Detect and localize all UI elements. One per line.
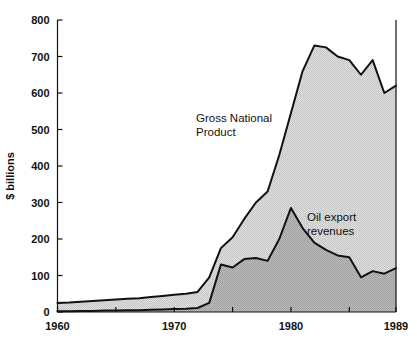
y-tick-label: 0 [43, 306, 49, 318]
y-axis-tick-labels: 0100200300400500600700800 [31, 14, 49, 318]
gnp-series-label: Gross National Product [196, 112, 272, 138]
oil-label-line1: Oil export [307, 211, 357, 223]
area-chart: 0100200300400500600700800 19601970198019… [0, 0, 417, 343]
y-tick-label: 800 [31, 14, 49, 26]
y-tick-label: 600 [31, 87, 49, 99]
y-axis-ticks [58, 20, 63, 312]
x-tick-label: 1970 [162, 320, 186, 332]
x-tick-label: 1980 [279, 320, 303, 332]
x-tick-label: 1989 [384, 320, 408, 332]
y-tick-label: 700 [31, 51, 49, 63]
y-tick-label: 200 [31, 233, 49, 245]
chart-figure: 0100200300400500600700800 19601970198019… [0, 0, 417, 343]
y-tick-label: 100 [31, 270, 49, 282]
x-axis-tick-labels: 1960197019801989 [45, 320, 408, 332]
y-axis-title: $ billions [4, 152, 16, 200]
gnp-label-line2: Product [196, 126, 236, 138]
y-tick-label: 500 [31, 124, 49, 136]
oil-label-line2: revenues [307, 225, 355, 237]
x-tick-label: 1960 [45, 320, 69, 332]
y-tick-label: 300 [31, 197, 49, 209]
y-tick-label: 400 [31, 160, 49, 172]
plot-area [58, 46, 397, 312]
gnp-label-line1: Gross National [196, 112, 272, 124]
